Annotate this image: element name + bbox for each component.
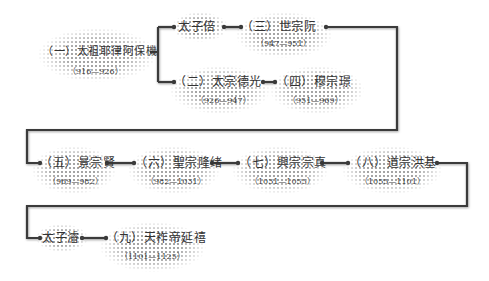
halftone-background (170, 66, 270, 114)
node-name: （七）興宗宗真 (239, 156, 327, 170)
node-dates: （982—1031） (146, 177, 206, 187)
halftone-background (100, 222, 206, 272)
node-name: （三）世宗阮 (241, 20, 316, 34)
node-name: 太子濬 (42, 231, 80, 245)
node-name: （一）太祖耶律阿保機 (42, 45, 157, 59)
node-name: （五）景宗賢 (40, 156, 115, 170)
node-name: （八）道宗洪基 (349, 156, 437, 170)
node-name: （六）聖宗隆绪 (135, 156, 223, 170)
halftone-background (270, 66, 364, 114)
halftone-background (236, 12, 332, 58)
node-name: 太子倍 (178, 20, 216, 34)
node-dates: （926—947） (196, 96, 251, 106)
node-dates: （1031—1055） (250, 177, 315, 187)
node-name: （二）太宗德光 (174, 75, 262, 89)
node-dates: （1055—1101） (360, 177, 425, 187)
node-dates: （951—969） (288, 96, 343, 106)
node-name: （四）穆宗璟 (276, 75, 351, 89)
node-dates: （1101—1125） (120, 252, 185, 262)
node-dates: （947—951） (256, 39, 311, 49)
node-dates: （969—982） (48, 177, 103, 187)
node-name: （九）天祚帝延禧 (106, 231, 206, 245)
liao-emperors-lineage-diagram: （一）太祖耶律阿保機 （916—926） 太子倍 （三）世宗阮 （947—951… (0, 0, 489, 281)
node-dates: （916—926） (68, 67, 123, 77)
